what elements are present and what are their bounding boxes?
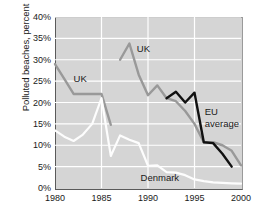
y-tick-label: 20% [33,98,51,108]
y-tick-label: 35% [33,33,51,43]
x-tick-label: 1990 [138,193,158,203]
y-tick-label: 40% [33,12,51,22]
x-tick-label: 2000 [231,193,251,203]
x-tick-label: 1980 [45,193,65,203]
eu-label-line2: average [205,119,239,129]
x-tick-label: 1995 [184,193,204,203]
y-tick-label: 15% [33,119,51,129]
x-tick-label: 1985 [91,193,111,203]
y-tick-label: 0% [38,183,51,193]
eu-label-line1: EU [205,107,218,117]
y-axis-tick-labels: 40%35%30%25%20%15%10%5%0% [18,0,51,222]
uk-label-right: UK [137,44,150,54]
y-tick-label: 30% [33,55,51,65]
denmark-label: Denmark [141,173,180,183]
y-tick-label: 10% [33,140,51,150]
x-axis-tick-labels: 19801985199019952000 [0,193,263,211]
y-tick-label: 5% [38,162,51,172]
y-tick-label: 25% [33,76,51,86]
chart-container: Polluted beaches, percent 40%35%30%25%20… [0,0,263,222]
uk-label-left: UK [74,74,87,84]
series-line-uk [120,44,241,166]
